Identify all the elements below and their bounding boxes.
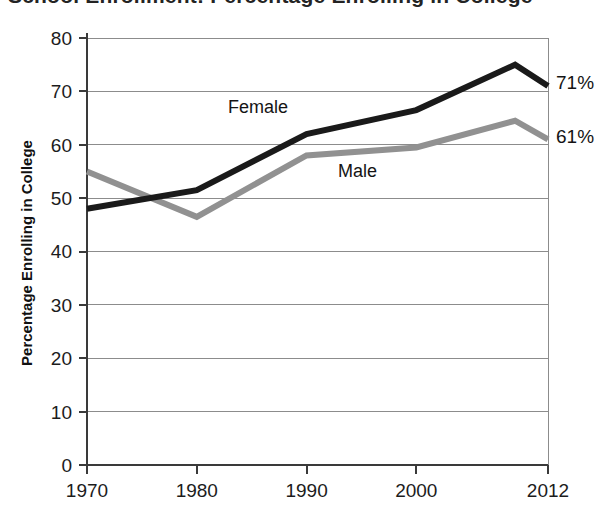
y-axis-ticks xyxy=(79,38,87,465)
y-tick-label-80: 80 xyxy=(51,28,72,49)
x-tick-label-2000: 2000 xyxy=(395,480,437,501)
chart-page: School Enrollment: Percentage Enrolling … xyxy=(0,0,614,527)
end-value-label-male: 61% xyxy=(556,126,594,147)
series-label-female: Female xyxy=(228,97,288,117)
y-tick-label-40: 40 xyxy=(51,241,72,262)
x-tick-label-1980: 1980 xyxy=(176,480,218,501)
y-tick-label-70: 70 xyxy=(51,81,72,102)
series-label-male: Male xyxy=(338,161,377,181)
x-tick-label-2012: 2012 xyxy=(527,480,569,501)
y-tick-label-20: 20 xyxy=(51,348,72,369)
line-chart: 80 70 60 50 40 30 20 10 0 1970 1980 1990… xyxy=(0,0,614,527)
y-tick-label-60: 60 xyxy=(51,135,72,156)
x-tick-label-1970: 1970 xyxy=(66,480,108,501)
end-value-label-female: 71% xyxy=(556,72,594,93)
series-line-male xyxy=(87,121,548,217)
series-line-female xyxy=(87,65,548,209)
y-axis-title: Percentage Enrolling in College xyxy=(18,140,35,366)
gridlines xyxy=(87,38,548,412)
chart-svg: 80 70 60 50 40 30 20 10 0 1970 1980 1990… xyxy=(0,0,614,527)
y-tick-label-50: 50 xyxy=(51,188,72,209)
y-tick-label-10: 10 xyxy=(51,402,72,423)
x-tick-label-1990: 1990 xyxy=(285,480,327,501)
y-tick-label-0: 0 xyxy=(61,455,72,476)
x-axis-ticks xyxy=(87,465,548,474)
y-tick-label-30: 30 xyxy=(51,295,72,316)
